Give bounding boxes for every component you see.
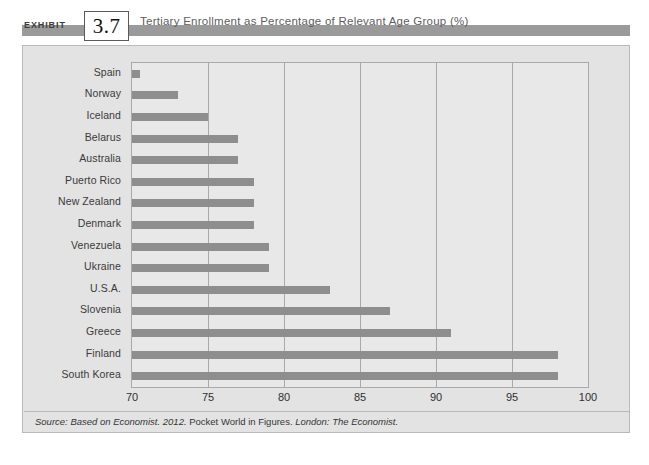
category-label-new-zealand: New Zealand — [58, 195, 121, 207]
category-label-greece: Greece — [86, 325, 121, 337]
category-label-slovenia: Slovenia — [80, 303, 121, 315]
bar-row — [132, 128, 588, 150]
x-tick-label-70: 70 — [126, 391, 138, 403]
bars-layer — [132, 63, 588, 387]
bar-south-korea — [132, 372, 558, 380]
bar-row — [132, 279, 588, 301]
page-title: Tertiary Enrollment as Percentage of Rel… — [140, 15, 469, 27]
exhibit-header: EXHIBIT 3.7 Tertiary Enrollment as Perce… — [22, 8, 630, 44]
exhibit-number-box: 3.7 — [84, 11, 129, 41]
source-note: Source: Based on Economist. 2012. Pocket… — [35, 416, 398, 427]
bar-row — [132, 85, 588, 107]
bar-ukraine — [132, 264, 269, 272]
bar-norway — [132, 91, 178, 99]
category-label-iceland: Iceland — [86, 109, 121, 121]
bar-row — [132, 257, 588, 279]
bar-slovenia — [132, 307, 390, 315]
bar-new-zealand — [132, 199, 254, 207]
x-tick-label-95: 95 — [506, 391, 518, 403]
bar-puerto-rico — [132, 178, 254, 186]
category-label-spain: Spain — [94, 66, 121, 78]
source-prefix: Source: Based on Economist. 2012. — [35, 416, 187, 427]
x-tick-label-90: 90 — [430, 391, 442, 403]
category-label-belarus: Belarus — [85, 131, 121, 143]
bar-row — [132, 365, 588, 387]
source-divider — [24, 411, 630, 412]
bar-finland — [132, 351, 558, 359]
bar-belarus — [132, 135, 238, 143]
category-label-venezuela: Venezuela — [71, 239, 121, 251]
bar-spain — [132, 70, 140, 78]
x-tick-label-100: 100 — [579, 391, 597, 403]
bar-row — [132, 344, 588, 366]
x-tick-label-75: 75 — [202, 391, 214, 403]
bar-u-s-a — [132, 286, 330, 294]
y-axis-category-labels: SpainNorwayIcelandBelarusAustraliaPuerto… — [23, 62, 127, 388]
bar-row — [132, 214, 588, 236]
category-label-denmark: Denmark — [78, 217, 121, 229]
plot-area — [131, 62, 589, 388]
exhibit-figure: EXHIBIT 3.7 Tertiary Enrollment as Perce… — [0, 0, 649, 465]
bar-iceland — [132, 113, 208, 121]
bar-row — [132, 193, 588, 215]
bar-row — [132, 171, 588, 193]
source-middle: Pocket World in Figures. — [189, 416, 292, 427]
bar-row — [132, 236, 588, 258]
category-label-south-korea: South Korea — [62, 368, 121, 380]
bar-row — [132, 63, 588, 85]
exhibit-number: 3.7 — [85, 12, 128, 40]
bar-row — [132, 106, 588, 128]
category-label-australia: Australia — [79, 152, 121, 164]
bar-row — [132, 149, 588, 171]
x-tick-label-85: 85 — [354, 391, 366, 403]
category-label-ukraine: Ukraine — [84, 260, 121, 272]
bar-denmark — [132, 221, 254, 229]
category-label-u-s-a: U.S.A. — [90, 282, 121, 294]
bar-venezuela — [132, 243, 269, 251]
category-label-norway: Norway — [85, 87, 121, 99]
category-label-finland: Finland — [86, 347, 121, 359]
category-label-puerto-rico: Puerto Rico — [65, 174, 121, 186]
bar-australia — [132, 156, 238, 164]
chart-frame: SpainNorwayIcelandBelarusAustraliaPuerto… — [22, 45, 630, 433]
x-tick-label-80: 80 — [278, 391, 290, 403]
exhibit-label: EXHIBIT — [24, 20, 66, 30]
bar-greece — [132, 329, 451, 337]
bar-row — [132, 322, 588, 344]
source-suffix: London: The Economist. — [295, 416, 398, 427]
x-axis-tick-labels: 707580859095100 — [131, 391, 589, 407]
bar-row — [132, 301, 588, 323]
